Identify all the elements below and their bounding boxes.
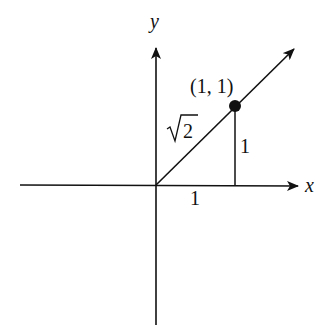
point-marker bbox=[229, 100, 241, 112]
hypotenuse-label: 2 bbox=[167, 115, 198, 142]
y-axis-label: y bbox=[148, 10, 159, 33]
x-axis-label: x bbox=[304, 174, 314, 196]
diagram-canvas: y x (1, 1) 1 1 2 bbox=[0, 0, 333, 333]
ray-line bbox=[156, 49, 294, 185]
vertical-leg-label: 1 bbox=[240, 135, 250, 157]
radicand: 2 bbox=[183, 120, 193, 142]
horizontal-leg-label: 1 bbox=[190, 187, 200, 209]
x-axis bbox=[20, 185, 298, 186]
point-label: (1, 1) bbox=[190, 75, 233, 98]
